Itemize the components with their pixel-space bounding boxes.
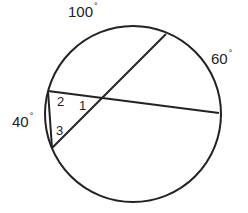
circle-diagram [0,0,248,213]
chord-ad [48,91,219,113]
arc-label-40: 40° [12,114,33,129]
chord-bc [52,34,166,148]
circle [45,26,221,202]
arc-label-100: 100° [68,4,98,19]
angle-label-1: 1 [79,99,86,112]
angle-label-2: 2 [57,95,64,108]
angle-label-3: 3 [56,124,63,137]
arc-label-60: 60° [211,51,232,66]
